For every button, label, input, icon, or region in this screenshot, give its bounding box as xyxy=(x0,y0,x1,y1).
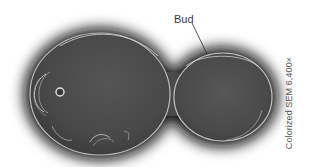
bud-label: Bud xyxy=(174,13,194,25)
bud-cell xyxy=(174,53,272,141)
micrograph-figure: Bud Colorized SEM 6,400× xyxy=(0,0,312,167)
magnification-caption: Colorized SEM 6,400× xyxy=(284,57,294,149)
bud-scar xyxy=(56,88,64,96)
mother-cell xyxy=(30,33,170,155)
bud-pointer-line xyxy=(192,23,207,54)
sem-micrograph xyxy=(0,0,312,167)
